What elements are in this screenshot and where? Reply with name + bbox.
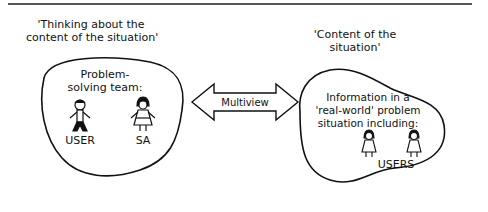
left-heading: 'Thinking about the content of the situa… (26, 18, 156, 44)
info-line1: Information in a (308, 91, 428, 104)
team-line2: solving team: (60, 81, 150, 94)
right-heading: 'Content of the situation' (300, 28, 410, 54)
left-heading-line1: 'Thinking about the (26, 18, 156, 31)
user-boy-icon (70, 100, 90, 131)
sa-label: SA (128, 134, 158, 147)
left-heading-line2: content of the situation' (26, 31, 156, 44)
arrow-label: Multiview (214, 96, 276, 109)
info-line2: 'real-world' problem (308, 104, 428, 117)
sa-girl-icon (131, 97, 155, 131)
users-girl-icon-2 (407, 130, 421, 157)
users-girl-icon-1 (362, 130, 376, 157)
info-line3: situation including: (308, 117, 428, 130)
right-heading-line1: 'Content of the (300, 28, 410, 41)
team-label: Problem- solving team: (60, 68, 150, 94)
right-heading-line2: situation' (300, 41, 410, 54)
info-label: Information in a 'real-world' problem si… (308, 91, 428, 130)
users-label: USERS (372, 158, 420, 171)
team-line1: Problem- (60, 68, 150, 81)
user-label: USER (62, 134, 98, 147)
